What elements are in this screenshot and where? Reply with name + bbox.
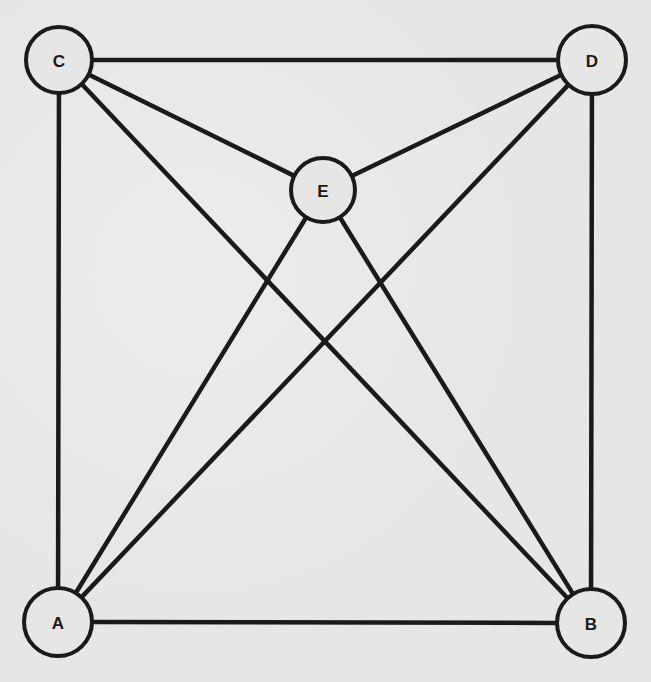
- node-c: C: [26, 27, 92, 93]
- node-label: C: [53, 52, 65, 71]
- edge-d-b: [591, 94, 592, 589]
- edges-group: [58, 60, 592, 623]
- node-label: B: [585, 615, 597, 634]
- node-label: E: [317, 182, 328, 201]
- k5-graph-diagram: ABCDE: [0, 0, 651, 682]
- edge-e-b: [340, 217, 573, 594]
- node-label: D: [586, 52, 598, 71]
- edge-a-b: [92, 622, 557, 623]
- node-a: A: [24, 588, 92, 656]
- node-label: A: [52, 614, 64, 633]
- node-d: D: [558, 26, 626, 94]
- node-b: B: [557, 589, 625, 657]
- edge-e-a: [76, 217, 306, 593]
- edge-c-a: [58, 93, 59, 588]
- node-e: E: [291, 158, 355, 222]
